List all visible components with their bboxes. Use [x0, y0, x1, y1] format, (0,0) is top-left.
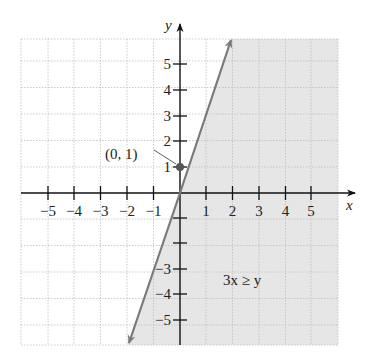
svg-text:1: 1 [164, 159, 172, 175]
svg-text:4: 4 [282, 203, 290, 219]
svg-text:−5: −5 [40, 203, 56, 219]
inequality-label: 3x ≥ y [223, 272, 262, 288]
svg-text:1: 1 [202, 203, 210, 219]
x-axis-label: x [345, 197, 353, 213]
test-point-label: (0, 1) [105, 146, 138, 163]
svg-text:5: 5 [164, 56, 172, 72]
svg-text:−4: −4 [155, 286, 171, 302]
svg-text:3: 3 [255, 203, 263, 219]
svg-text:2: 2 [229, 203, 237, 219]
test-point [176, 163, 184, 171]
svg-text:−2: −2 [119, 203, 135, 219]
svg-text:3: 3 [164, 108, 172, 124]
svg-text:−1: −1 [146, 203, 162, 219]
y-axis-label: y [163, 17, 172, 33]
svg-text:−3: −3 [155, 261, 171, 277]
y-tick-labels: 5 4 3 2 1 −3 −4 −5 [155, 56, 171, 328]
svg-text:5: 5 [307, 203, 315, 219]
svg-text:−4: −4 [66, 203, 82, 219]
svg-text:2: 2 [164, 133, 172, 149]
svg-text:−5: −5 [155, 312, 171, 328]
svg-text:−3: −3 [93, 203, 109, 219]
inequality-graph: −5 −4 −3 −2 −1 1 2 3 4 5 5 4 3 2 1 −3 −4… [0, 0, 378, 364]
svg-text:4: 4 [164, 82, 172, 98]
